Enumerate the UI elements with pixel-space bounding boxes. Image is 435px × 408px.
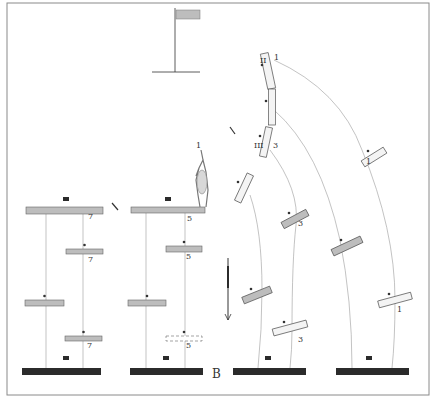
trajectory-label: 3 [298,335,303,344]
tilted-bar [272,320,308,336]
trajectory-label: 1 [397,305,402,314]
dot-marker [183,241,186,244]
left-falling-bar [25,300,64,306]
dot-marker [237,181,240,184]
ground-bar [22,368,101,375]
left-falling-bar [66,249,103,254]
middle-falling-bar [128,300,166,306]
dot-marker [367,150,370,153]
tick-mark [230,127,235,134]
left-falling-bar [65,336,102,341]
middle-bar-label: 5 [186,341,191,350]
middle-bar-label: 5 [186,252,191,261]
relativity-diagram: 7775551II1III33131B B [0,0,435,408]
ground-bar [233,368,306,375]
dot-marker [388,293,391,296]
dot-marker [288,212,291,215]
square-marker-icon [163,356,169,360]
tilted-bar [269,89,276,125]
trajectory-label: II [260,56,266,65]
dot-marker [259,135,262,138]
trajectory-label: III [254,141,263,150]
dot-marker [183,331,186,334]
square-marker-icon [265,356,271,360]
trajectory-label: 3 [273,141,278,150]
trajectory-label: 1 [366,157,371,166]
tilted-bar [281,209,309,228]
ground-bar [336,368,409,375]
middle-top-bar [131,207,205,213]
square-marker-icon [165,197,171,201]
dot-marker [146,295,149,298]
dot-marker [250,288,253,291]
dot-marker [82,331,85,334]
tilted-bar [242,286,272,304]
flag-icon [176,10,200,19]
ground-bar [130,368,203,375]
middle-top-label: 5 [187,214,192,223]
middle-falling-bar [166,246,202,252]
dot-marker [340,239,343,242]
dot-marker [83,244,86,247]
tilted-bar [331,236,363,256]
left-bar-label: 7 [88,255,93,264]
person-figure-icon [196,150,208,207]
left-top-label: 7 [88,212,93,221]
square-marker-icon [366,356,372,360]
square-marker-icon [63,356,69,360]
dot-marker [283,321,286,324]
arrow-shaft-bold [227,266,229,288]
dot-marker [43,295,46,298]
diagram-canvas: 7775551II1III33131B [0,0,435,408]
person-label: 1 [196,141,201,150]
dot-marker [265,100,268,103]
curved-trajectory [250,195,262,368]
middle-falling-bar [166,336,202,341]
panel-label-b: B [212,367,221,381]
trajectory-label: 1 [274,53,279,62]
trajectory-label: 3 [298,219,303,228]
tilted-bar [234,173,253,203]
left-bar-label: 7 [87,341,92,350]
square-marker-icon [63,197,69,201]
tick-mark [112,203,118,210]
